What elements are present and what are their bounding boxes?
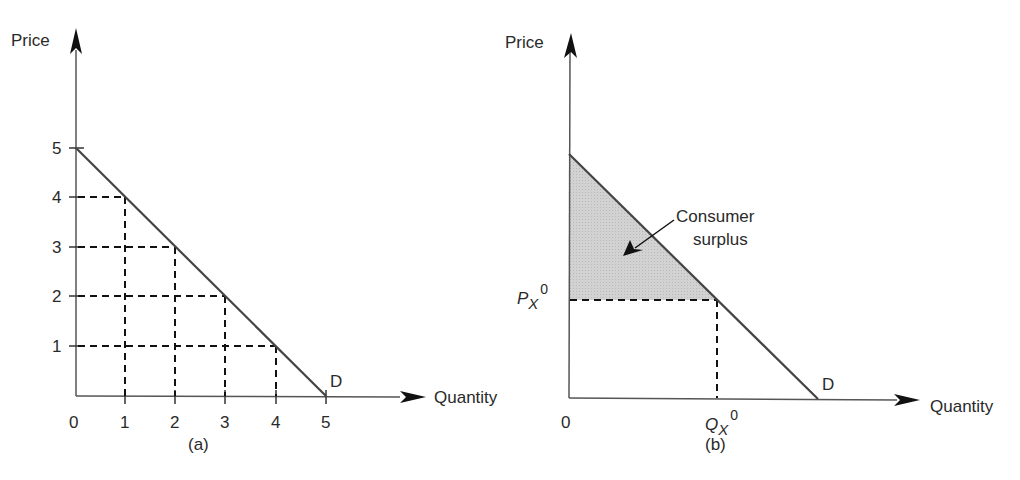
x-axis-label: Quantity (930, 397, 994, 416)
demand-label: D (330, 372, 342, 391)
y-axis (569, 50, 570, 398)
panel-caption: (b) (705, 435, 726, 454)
x-tick-1: 1 (120, 413, 129, 432)
annotation-line-1: Consumer (676, 207, 755, 226)
y-tick-1: 1 (52, 337, 61, 356)
y-tick-3: 3 (52, 238, 61, 257)
x-tick-3: 3 (220, 413, 229, 432)
x-axis (569, 398, 897, 400)
panel-a: Price Quantity 5 4 3 2 1 0 1 2 3 4 (11, 28, 498, 454)
x-tick-2: 2 (170, 413, 179, 432)
origin-label: 0 (69, 413, 78, 432)
quantity-equilibrium-label: QX0 (705, 407, 738, 438)
x-axis-label: Quantity (434, 388, 498, 407)
demand-label: D (822, 375, 834, 394)
x-axis-arrow-icon (400, 391, 426, 403)
demand-curve (76, 148, 326, 396)
x-tick-5: 5 (321, 413, 330, 432)
y-tick-4: 4 (52, 188, 61, 207)
x-axis-arrow-icon (894, 394, 920, 406)
panel-caption: (a) (188, 435, 209, 454)
x-tick-4: 4 (271, 413, 280, 432)
price-equilibrium-label: PX0 (517, 281, 548, 312)
figure: Price Quantity 5 4 3 2 1 0 1 2 3 4 (0, 0, 1020, 480)
guide-lines (78, 197, 276, 396)
annotation-line-2: surplus (693, 230, 748, 249)
y-tick-2: 2 (52, 287, 61, 306)
panel-b: Price Quantity D PX0 QX0 0 Consumer surp… (505, 33, 994, 454)
y-axis-label: Price (505, 33, 544, 52)
y-tick-5: 5 (52, 139, 61, 158)
origin-label: 0 (561, 413, 570, 432)
equilibrium-guides (570, 300, 717, 398)
y-axis-label: Price (11, 31, 50, 50)
